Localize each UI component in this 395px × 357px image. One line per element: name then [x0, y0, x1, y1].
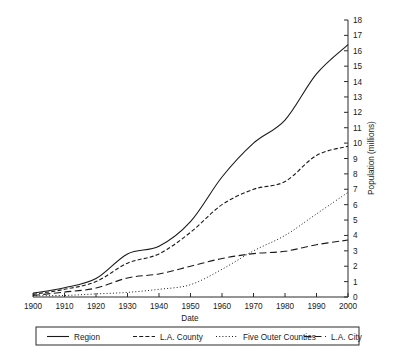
y-tick-label-9: 9	[353, 155, 358, 164]
y-tick-label-10: 10	[353, 139, 363, 148]
y-tick-label-2: 2	[353, 262, 358, 271]
y-tick-label-15: 15	[353, 62, 363, 71]
y-tick-label-0: 0	[353, 293, 358, 302]
legend-label: Region	[74, 333, 100, 342]
x-tick-label-1950: 1950	[181, 302, 200, 311]
y-tick-label-13: 13	[353, 93, 363, 102]
x-axis-title: Date	[181, 314, 199, 323]
population-line-chart: 1900191019201930194019501960197019801990…	[0, 0, 395, 357]
y-tick-label-8: 8	[353, 170, 358, 179]
y-tick-label-1: 1	[353, 278, 358, 287]
y-tick-label-3: 3	[353, 247, 358, 256]
x-tick-label-1970: 1970	[244, 302, 263, 311]
x-tick-label-1990: 1990	[307, 302, 326, 311]
chart-figure: 1900191019201930194019501960197019801990…	[0, 0, 395, 357]
y-tick-label-16: 16	[353, 47, 363, 56]
y-tick-label-11: 11	[353, 124, 362, 133]
x-tick-label-1920: 1920	[87, 302, 106, 311]
y-tick-label-12: 12	[353, 108, 363, 117]
x-tick-label-1910: 1910	[55, 302, 74, 311]
x-tick-label-1980: 1980	[276, 302, 295, 311]
y-tick-label-14: 14	[353, 78, 363, 87]
y-tick-label-7: 7	[353, 185, 358, 194]
legend-label: L.A. County	[160, 333, 204, 342]
x-tick-label-1930: 1930	[118, 302, 137, 311]
y-tick-label-17: 17	[353, 31, 363, 40]
x-tick-label-1940: 1940	[150, 302, 169, 311]
x-tick-label-1900: 1900	[24, 302, 43, 311]
y-axis-title: Population (millions)	[367, 121, 376, 195]
legend-label: L.A. City	[331, 333, 363, 342]
y-tick-label-5: 5	[353, 216, 358, 225]
legend-label: Five Outer Counties	[243, 333, 316, 342]
y-tick-label-6: 6	[353, 201, 358, 210]
x-tick-label-1960: 1960	[213, 302, 232, 311]
y-tick-label-4: 4	[353, 231, 358, 240]
x-tick-label-2000: 2000	[339, 302, 358, 311]
y-tick-label-18: 18	[353, 16, 363, 25]
